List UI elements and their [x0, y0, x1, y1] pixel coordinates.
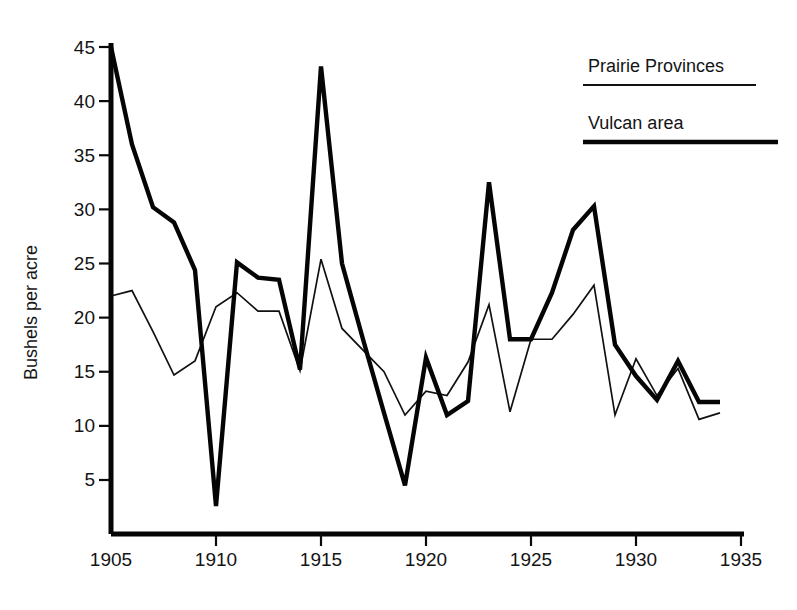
x-tick-label-1905: 1905: [90, 549, 132, 570]
y-tick-label-20: 20: [74, 307, 95, 328]
x-tick-label-1920: 1920: [405, 549, 447, 570]
line-chart: Bushels per acre 45 40 35 30 25 20 15 10…: [0, 0, 797, 610]
y-tick-label-25: 25: [74, 253, 95, 274]
y-tick-marks: [99, 47, 110, 480]
y-tick-label-35: 35: [74, 145, 95, 166]
y-tick-label-5: 5: [84, 469, 95, 490]
y-tick-label-45: 45: [74, 37, 95, 58]
x-tick-label-1930: 1930: [615, 549, 657, 570]
x-tick-label-1915: 1915: [300, 549, 342, 570]
x-tick-label-1925: 1925: [510, 549, 552, 570]
y-tick-label-10: 10: [74, 415, 95, 436]
legend-label-prairie-provinces: Prairie Provinces: [588, 56, 724, 76]
y-tick-label-15: 15: [74, 361, 95, 382]
x-tick-label-1935: 1935: [720, 549, 762, 570]
y-axis-label: Bushels per acre: [21, 245, 41, 380]
chart-legend: Prairie Provinces Vulcan area: [583, 56, 778, 142]
y-tick-label-40: 40: [74, 91, 95, 112]
y-tick-label-30: 30: [74, 199, 95, 220]
chart-container: Bushels per acre 45 40 35 30 25 20 15 10…: [0, 0, 797, 610]
legend-label-vulcan-area: Vulcan area: [588, 113, 684, 133]
x-tick-label-1910: 1910: [195, 549, 237, 570]
